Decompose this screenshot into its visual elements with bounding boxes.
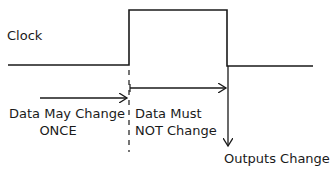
not-change-label: NOT Change [135, 123, 217, 138]
timing-diagram: Clock Data May Change ONCE Data Must NOT… [0, 0, 335, 170]
once-label: ONCE [39, 123, 76, 138]
outputs-change-label: Outputs Change [224, 151, 330, 166]
data-must-label: Data Must [135, 106, 202, 121]
data-may-change-label: Data May Change [9, 106, 125, 121]
clock-waveform [8, 10, 313, 66]
clock-label: Clock [7, 28, 43, 43]
